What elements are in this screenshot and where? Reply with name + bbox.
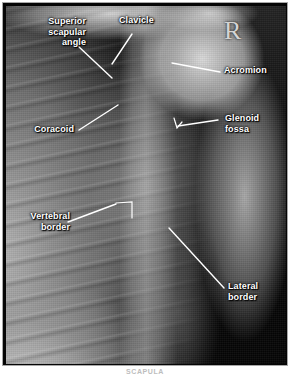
label-lateral-border: Lateral border — [228, 281, 284, 302]
label-glenoid-fossa: Glenoid fossa — [225, 113, 283, 134]
label-clavicle: Clavicle — [119, 15, 189, 26]
leader-line-glenoid-fossa — [178, 120, 218, 126]
leader-line-superior-scapular-angle — [78, 46, 112, 78]
right-side-marker: R — [224, 18, 241, 44]
radiograph-frame: Superior scapular angle Clavicle Acromio… — [2, 2, 288, 366]
leader-line-coracoid — [79, 105, 118, 130]
label-coracoid: Coracoid — [8, 124, 74, 135]
radiograph-film: Superior scapular angle Clavicle Acromio… — [6, 6, 286, 364]
annotation-overlay: Superior scapular angle Clavicle Acromio… — [6, 6, 286, 364]
label-acromion: Acromion — [224, 65, 284, 76]
label-vertebral-border: Vertebral border — [8, 211, 70, 232]
radiograph-figure: Superior scapular angle Clavicle Acromio… — [0, 0, 290, 382]
leader-line-acromion — [172, 63, 220, 72]
leader-line-vertebral-border — [68, 204, 116, 222]
leader-line-clavicle — [112, 34, 132, 64]
label-superior-scapular-angle: Superior scapular angle — [12, 16, 86, 48]
vertebral-border-tick — [116, 202, 132, 218]
figure-caption: SCAPULA — [0, 368, 290, 380]
glenoid-fossa-tick — [174, 118, 182, 128]
leader-line-lateral-border — [169, 228, 224, 288]
